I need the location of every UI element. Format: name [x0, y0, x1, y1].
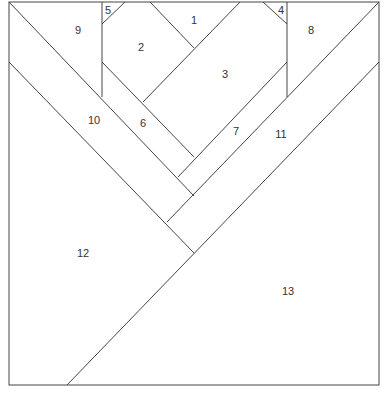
piece-label-1: 1 — [191, 14, 197, 26]
piece-label-3: 3 — [222, 68, 228, 80]
pattern-lines — [0, 0, 385, 396]
piece-label-10: 10 — [88, 114, 100, 126]
piece-label-5: 5 — [105, 4, 111, 16]
piece-label-9: 9 — [75, 24, 81, 36]
piece-label-6: 6 — [140, 117, 146, 129]
piece-label-11: 11 — [275, 128, 286, 140]
piece-label-2: 2 — [138, 41, 144, 53]
piece-label-13: 13 — [282, 285, 294, 297]
piece-label-12: 12 — [77, 247, 89, 259]
piece-label-7: 7 — [233, 125, 239, 137]
piece-label-8: 8 — [308, 24, 314, 36]
piece-label-4: 4 — [278, 4, 284, 16]
